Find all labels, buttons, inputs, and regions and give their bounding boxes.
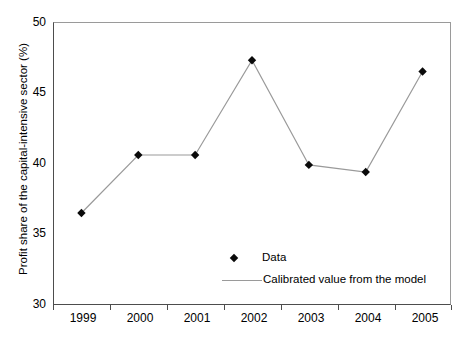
- legend-row-data: Data: [222, 248, 442, 270]
- x-tick-mark-4: [281, 305, 282, 310]
- x-tick-label-2003: 2003: [281, 311, 341, 325]
- y-tick-label-50: 50: [22, 16, 46, 28]
- x-tick-mark-3: [224, 305, 225, 310]
- chart-figure: Profit share of the capital-intensive se…: [0, 0, 468, 344]
- diamond-marker-icon: [230, 254, 238, 262]
- x-tick-label-2000: 2000: [110, 311, 170, 325]
- x-tick-label-1999: 1999: [53, 311, 113, 325]
- x-tick-mark-2: [167, 305, 168, 310]
- x-tick-label-2002: 2002: [224, 311, 284, 325]
- x-tick-mark-5: [338, 305, 339, 310]
- y-tick-label-45: 45: [22, 86, 46, 98]
- chart-legend: Data Calibrated value from the model: [222, 248, 442, 292]
- legend-label-data: Data: [262, 251, 286, 263]
- x-tick-mark-7: [451, 305, 452, 310]
- legend-row-model: Calibrated value from the model: [222, 270, 442, 292]
- x-tick-mark-1: [110, 305, 111, 310]
- x-tick-label-2001: 2001: [167, 311, 227, 325]
- legend-label-model: Calibrated value from the model: [263, 273, 426, 285]
- x-tick-label-2005: 2005: [395, 311, 455, 325]
- x-tick-mark-6: [395, 305, 396, 310]
- y-axis-tick-labels: 30 35 40 45 50: [20, 0, 46, 344]
- line-marker-icon: [222, 280, 262, 281]
- x-tick-mark-0: [53, 305, 54, 310]
- y-tick-label-30: 30: [22, 298, 46, 310]
- y-tick-label-35: 35: [22, 227, 46, 239]
- y-tick-label-40: 40: [22, 157, 46, 169]
- x-tick-label-2004: 2004: [338, 311, 398, 325]
